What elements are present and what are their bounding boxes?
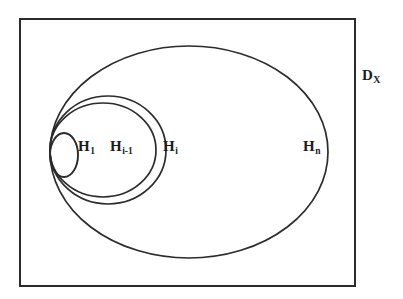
ellipse-h-i	[50, 96, 166, 204]
label-h-i: Hi	[163, 139, 177, 154]
diagram-canvas	[0, 0, 403, 299]
label-h-i-minus-1-subscript: i-1	[122, 146, 133, 156]
label-h-n-base: H	[303, 138, 315, 154]
label-d-x-subscript: X	[373, 74, 380, 85]
label-d-x: DX	[362, 68, 380, 83]
ellipse-h-1	[50, 133, 78, 177]
ellipse-h-i-minus-1	[50, 103, 156, 197]
label-d-x-base: D	[362, 67, 373, 83]
label-h-1-base: H	[78, 138, 90, 154]
label-h-i-base: H	[163, 138, 175, 154]
label-h-1: H1	[78, 139, 94, 154]
label-h-i-minus-1-base: H	[110, 138, 122, 154]
label-h-i-minus-1: Hi-1	[110, 139, 132, 154]
figure-container: H1 Hi-1 Hi Hn DX	[0, 0, 403, 299]
label-h-n-subscript: n	[315, 146, 320, 156]
label-h-n: Hn	[303, 139, 320, 154]
label-h-1-subscript: 1	[90, 146, 95, 156]
label-h-i-subscript: i	[175, 146, 178, 156]
